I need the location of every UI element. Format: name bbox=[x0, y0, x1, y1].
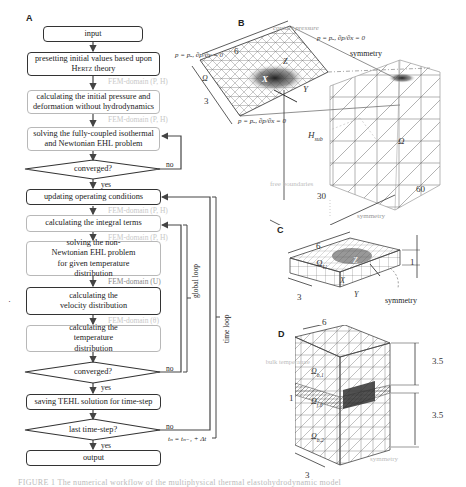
dim-1-d: 1 bbox=[289, 393, 294, 403]
dim-1-c: 1 bbox=[410, 257, 415, 267]
no-label-3: no bbox=[166, 422, 174, 431]
symmetry-label-c: symmetry bbox=[385, 296, 417, 305]
step-velocity-label: calculating the velocity distribution bbox=[57, 291, 130, 312]
step-temperature: calculating the temperature distribution bbox=[26, 325, 161, 352]
step-input-label: input bbox=[84, 29, 101, 40]
omega-u-label: ΩU bbox=[316, 258, 327, 270]
y-axis-label-c: Y bbox=[354, 290, 358, 299]
dim-6-d: 6 bbox=[322, 317, 327, 327]
step-initial-pressure: calculating the initial pressure and def… bbox=[27, 90, 160, 114]
dim-3-c: 3 bbox=[297, 292, 302, 302]
bc-left-label: p = pₐ, ∂p/∂y = 0 bbox=[175, 51, 223, 59]
yes-label-1: yes bbox=[101, 180, 111, 189]
omega-f-label: Ωf,θ bbox=[311, 397, 322, 408]
decision-converged-1: converged? bbox=[60, 164, 126, 173]
hertz-name: Hertz bbox=[72, 64, 93, 73]
dim-3-5-top: 3.5 bbox=[432, 356, 443, 366]
figure-caption: FIGURE 1 The numerical workflow of the m… bbox=[18, 478, 341, 487]
dim-3-5-bottom: 3.5 bbox=[432, 410, 443, 420]
time-update-formula: tₙ = tₙ₋₁ + Δt bbox=[168, 435, 206, 443]
step-solve-isothermal: solving the fully-coupled isothermal and… bbox=[27, 127, 160, 151]
no-label-1: no bbox=[166, 160, 174, 169]
mesh-b-drawing bbox=[190, 20, 466, 225]
step-preset-line2: Hertz theory bbox=[72, 64, 116, 75]
free-boundaries-label: free boundaries bbox=[270, 180, 313, 188]
yes-label-2: yes bbox=[101, 383, 111, 392]
dim-6-b: 6 bbox=[234, 46, 239, 56]
y-axis-label-b: Y bbox=[303, 84, 308, 94]
omega-b1-index: b,1 bbox=[317, 372, 324, 378]
step-preset-line1: presetting initial values based upon bbox=[35, 54, 152, 65]
step-solve-isothermal-label: solving the fully-coupled isothermal and… bbox=[31, 129, 156, 150]
yes-label-3: yes bbox=[101, 441, 111, 450]
omega-b2-index: b,2 bbox=[317, 437, 324, 443]
z-axis-label-c: Z bbox=[353, 256, 357, 265]
step-saving: saving TEHL solution for time-step bbox=[26, 394, 161, 410]
step-integral-terms: calculating the integral terms bbox=[26, 215, 161, 232]
step-integral-terms-label: calculating the integral terms bbox=[45, 218, 142, 229]
step-update-operating: updating operating conditions bbox=[26, 189, 161, 205]
symmetry-label-bottom: symmetry bbox=[357, 212, 385, 220]
step-temperature-label: calculating the temperature distribution bbox=[57, 323, 130, 355]
step-velocity: calculating the velocity distribution bbox=[26, 287, 161, 315]
domain-label-5: FEM-domain (U) bbox=[108, 277, 161, 286]
step-output-label: output bbox=[83, 453, 104, 464]
decision-converged-2: converged? bbox=[60, 367, 126, 376]
z-axis-label-b: Z bbox=[283, 57, 287, 66]
global-loop-label: global loop bbox=[191, 264, 200, 298]
step-initial-pressure-label: calculating the initial pressure and def… bbox=[31, 92, 156, 113]
domain-label-2: FEM-domain (P, H) bbox=[108, 115, 168, 124]
step-solve-non-newtonian: solving the non-Newtonian EHL problem fo… bbox=[26, 241, 161, 276]
omega-f-index: f,θ bbox=[317, 402, 323, 408]
step-input: input bbox=[43, 26, 143, 42]
dim-30-b: 30 bbox=[317, 191, 326, 201]
omega-b2-label: Ωb,2 bbox=[311, 432, 324, 443]
h-sub-index: sub bbox=[315, 136, 323, 142]
h-sub-label: Hsub bbox=[308, 130, 323, 142]
bulk-temperature-label: bulk temperature bbox=[262, 358, 310, 366]
step-output: output bbox=[26, 450, 161, 466]
contact-pressure-label: contact pressure bbox=[273, 24, 319, 32]
time-loop-label: time loop bbox=[222, 314, 231, 343]
omega-u-index: U bbox=[323, 264, 327, 270]
omega-label-b: Ω bbox=[398, 136, 405, 146]
step-solve-non-newtonian-label: solving the non-Newtonian EHL problem fo… bbox=[49, 238, 138, 280]
omega-b1-label: Ωb,1 bbox=[311, 367, 324, 378]
step-saving-label: saving TEHL solution for time-step bbox=[35, 397, 153, 408]
step-update-operating-label: updating operating conditions bbox=[44, 192, 143, 203]
stray-dot: · bbox=[8, 296, 11, 306]
bc-bottom-label: p = pₐ, ∂p/∂x = 0 bbox=[238, 117, 286, 125]
decision-last-time-step: last time-step? bbox=[55, 425, 131, 434]
x-axis-label-c: X bbox=[340, 276, 345, 285]
domain-label-3: FEM-domain (P, H) bbox=[108, 206, 168, 215]
dim-6-c: 6 bbox=[316, 241, 321, 251]
symmetry-label-top: symmetry bbox=[350, 49, 382, 58]
theory-word: theory bbox=[92, 64, 115, 73]
step-preset-hertz: presetting initial values based upon Her… bbox=[27, 52, 160, 76]
domain-label-1: FEM-domain (P, H) bbox=[108, 77, 168, 86]
omega-small-b: Ω bbox=[202, 74, 208, 83]
dim-3-b: 3 bbox=[204, 96, 209, 106]
panel-letter-d: D bbox=[278, 329, 285, 339]
x-axis-label-b: X bbox=[262, 74, 268, 84]
symmetry-label-d: symmetry bbox=[370, 455, 398, 463]
no-label-2: no bbox=[166, 364, 174, 373]
dim-60-b: 60 bbox=[416, 184, 425, 194]
bc-top-label: p = pₐ, ∂p/∂x = 0 bbox=[317, 34, 365, 42]
mesh-c-drawing bbox=[280, 230, 466, 310]
